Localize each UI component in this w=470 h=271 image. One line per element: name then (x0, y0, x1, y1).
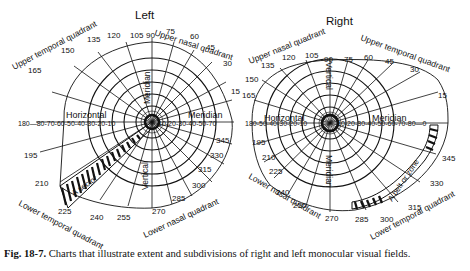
svg-text:300: 300 (380, 215, 394, 224)
svg-text:315: 315 (198, 165, 212, 174)
left-right-ticks: 10-20-30-40-50-70 (158, 120, 216, 127)
left-upper-temporal-label: Upper temporal quadrant (10, 18, 99, 71)
caption-text: Charts that illustrate extent and subdiv… (46, 248, 410, 259)
svg-text:135: 135 (261, 61, 275, 70)
svg-text:30: 30 (410, 65, 419, 74)
svg-text:285: 285 (172, 194, 186, 203)
right-vertical-label: Vertical (324, 62, 334, 90)
svg-text:30: 30 (223, 59, 232, 68)
svg-text:225: 225 (269, 167, 283, 176)
svg-text:255: 255 (117, 213, 131, 222)
right-vertical-meridian-label: Meridian (324, 155, 334, 188)
svg-text:345: 345 (442, 154, 456, 163)
svg-text:45: 45 (385, 57, 394, 66)
svg-text:270: 270 (325, 214, 339, 223)
left-chart-title: Left (135, 9, 155, 21)
svg-text:165: 165 (28, 66, 42, 75)
svg-text:270: 270 (152, 207, 166, 216)
svg-text:45: 45 (206, 43, 215, 52)
svg-text:330: 330 (430, 179, 444, 188)
svg-text:135: 135 (87, 35, 101, 44)
svg-text:285: 285 (355, 215, 369, 224)
right-upper-temporal-label: Upper temporal quadrant (359, 32, 452, 74)
right-horizontal-ticks-left: 180-50-40-30-20-10 (245, 120, 307, 127)
svg-text:240: 240 (276, 188, 290, 197)
left-meridian-label: Meridian (188, 110, 223, 120)
svg-text:330: 330 (210, 151, 224, 160)
svg-text:150: 150 (245, 75, 259, 84)
svg-text:315: 315 (408, 203, 422, 212)
svg-text:90: 90 (324, 55, 333, 64)
left-vertical-meridian-label: Meridian (142, 71, 152, 104)
right-horizontal-ticks-right: 10-20-30-40-50-60-70-80—0 (337, 120, 427, 127)
svg-text:150: 150 (61, 46, 75, 55)
svg-text:345: 345 (216, 136, 230, 145)
svg-text:195: 195 (24, 151, 38, 160)
zone-label: A belt or zone (386, 157, 421, 203)
svg-text:15: 15 (231, 87, 240, 96)
left-lower-temporal-label: Lower temporal quadrant (17, 198, 106, 251)
svg-text:210: 210 (262, 153, 276, 162)
visual-field-figure: Left Upper temporal quadrant Upper nasal… (0, 0, 470, 271)
svg-text:165: 165 (242, 91, 256, 100)
right-chart-title: Right (326, 15, 354, 27)
svg-text:75: 75 (344, 55, 353, 64)
svg-text:15: 15 (438, 91, 447, 100)
svg-text:120: 120 (282, 53, 296, 62)
svg-text:90: 90 (146, 31, 155, 40)
svg-text:105: 105 (130, 31, 144, 40)
left-horizontal-ticks: 180—80-70-60-50-40-30-20-10 (18, 120, 115, 127)
left-vertical-label: Vertical (140, 162, 150, 190)
svg-text:75: 75 (166, 27, 175, 36)
svg-text:60: 60 (190, 32, 199, 41)
svg-text:300: 300 (192, 181, 206, 190)
svg-text:195: 195 (252, 138, 266, 147)
figure-caption: Fig. 18-7. Charts that illustrate extent… (4, 248, 470, 259)
svg-text:120: 120 (107, 31, 121, 40)
svg-text:210: 210 (35, 179, 49, 188)
svg-text:105: 105 (305, 51, 319, 60)
svg-text:240: 240 (90, 213, 104, 222)
figure-number: Fig. 18-7. (4, 248, 46, 259)
svg-text:225: 225 (58, 207, 72, 216)
left-horizontal-label: Horizontal (66, 110, 107, 120)
svg-text:255: 255 (293, 201, 307, 210)
svg-text:60: 60 (364, 53, 373, 62)
